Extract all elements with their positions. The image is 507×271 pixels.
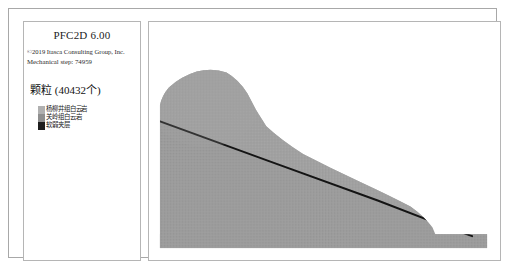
window-frame: PFC2D 6.00 ©2019 Itasca Consulting Group… <box>8 8 497 258</box>
legend-swatch-2 <box>38 122 45 130</box>
particle-group-title: 颗粒 (40432个) <box>30 81 140 97</box>
legend-swatch-0 <box>38 106 45 114</box>
copyright-text: ©2019 Itasca Consulting Group, Inc. <box>27 48 140 57</box>
plot-panel[interactable] <box>148 21 501 261</box>
legend-swatch-1 <box>38 114 45 122</box>
legend-label-2: 软弱夹层 <box>46 121 140 129</box>
mechanical-step-text: Mechanical step: 74959 <box>27 58 140 65</box>
legend-swatch-column <box>38 106 45 130</box>
legend-entry-list: 杨柳井组白云岩 关岭组白云岩 软弱夹层 <box>24 105 140 129</box>
app-title: PFC2D 6.00 <box>24 29 140 41</box>
legend-panel: PFC2D 6.00 ©2019 Itasca Consulting Group… <box>23 21 141 261</box>
crest-shading <box>151 68 258 147</box>
slope-model-plot <box>149 22 500 260</box>
legend-label-1: 关岭组白云岩 <box>46 113 140 121</box>
legend-label-0: 杨柳井组白云岩 <box>46 105 140 113</box>
screenshot-root: PFC2D 6.00 ©2019 Itasca Consulting Group… <box>0 0 507 271</box>
